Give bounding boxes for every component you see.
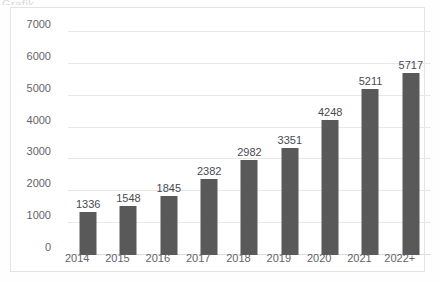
bar[interactable]	[402, 73, 419, 255]
y-axis-tick-label: 2000	[5, 177, 51, 189]
y-axis: 70006000500040003000200010000	[2, 24, 51, 247]
y-axis-tick-label: 1000	[5, 209, 51, 221]
bar-slot: 1548	[108, 32, 148, 255]
bar[interactable]	[120, 206, 137, 255]
bar-slot: 2982	[229, 32, 269, 255]
bar[interactable]	[241, 160, 258, 255]
bar-value-label: 3351	[278, 134, 302, 146]
bar[interactable]	[322, 120, 339, 255]
bar-value-label: 2382	[197, 165, 221, 177]
bar[interactable]	[80, 212, 97, 255]
y-axis-tick-label: 0	[5, 241, 51, 253]
y-axis-tick-label: 3000	[5, 145, 51, 157]
bar-value-label: 1336	[76, 198, 100, 210]
clipped-title-remnant: Grafik	[2, 0, 44, 5]
chart-frame: 133615481845238229823351424852115717	[10, 7, 425, 272]
y-axis-tick-label: 4000	[5, 114, 51, 126]
bar-value-label: 5211	[359, 75, 383, 87]
bar-value-label: 1845	[157, 182, 181, 194]
plot-area: 133615481845238229823351424852115717	[68, 32, 431, 255]
y-axis-tick-label: 7000	[5, 18, 51, 30]
bar[interactable]	[201, 179, 218, 255]
bar[interactable]	[362, 89, 379, 255]
bar-slot: 4248	[310, 32, 350, 255]
y-axis-tick-label: 5000	[5, 82, 51, 94]
bar-value-label: 5717	[399, 59, 423, 71]
bar-slot: 5211	[350, 32, 390, 255]
bar-value-label: 1548	[116, 192, 140, 204]
bar-value-label: 2982	[237, 146, 261, 158]
page-background: Grafik 133615481845238229823351424852115…	[0, 0, 440, 282]
bar-slot: 1845	[149, 32, 189, 255]
bar[interactable]	[281, 148, 298, 255]
bar-slot: 5717	[391, 32, 431, 255]
y-axis-tick-label: 6000	[5, 50, 51, 62]
bar[interactable]	[160, 196, 177, 255]
bar-slot: 2382	[189, 32, 229, 255]
bar-value-label: 4248	[318, 106, 342, 118]
bar-slot: 1336	[68, 32, 108, 255]
bar-slot: 3351	[270, 32, 310, 255]
